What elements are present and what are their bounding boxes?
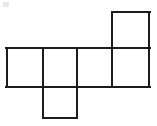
square-top-right xyxy=(112,11,150,48)
cube-net-diagram xyxy=(0,0,157,126)
corner-speck-artifact xyxy=(3,2,9,7)
square-bottom xyxy=(43,87,77,118)
figure-canvas xyxy=(0,0,157,126)
square-row-3 xyxy=(77,48,112,87)
square-row-2 xyxy=(43,48,77,87)
square-row-4 xyxy=(112,48,150,87)
square-row-1 xyxy=(6,48,43,87)
